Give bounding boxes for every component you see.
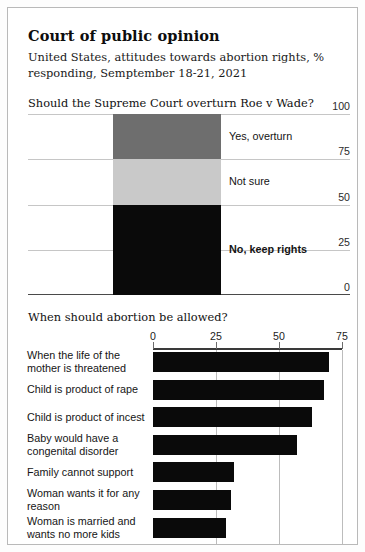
chart1-segment <box>113 114 221 159</box>
chart2-gridline <box>342 350 343 544</box>
chart2-category-label: Child is product of rape <box>27 383 149 396</box>
infographic-frame: Court of public opinion United States, a… <box>7 7 358 545</box>
chart2-bar <box>153 352 329 372</box>
chart1-ytick-label: 100 <box>332 100 350 112</box>
chart1-ytick-label: 75 <box>338 145 350 157</box>
chart1-segment-label: No, keep rights <box>229 243 307 255</box>
chart2-bar <box>153 435 297 455</box>
chart1-title: Should the Supreme Court overturn Roe v … <box>28 96 314 110</box>
chart2-xtick-label: 50 <box>273 330 285 342</box>
chart2-category-label: When the life of the mother is threatene… <box>27 349 149 375</box>
chart2-xtick-mark <box>342 342 343 349</box>
chart2-category-label: Woman is married and wants no more kids <box>27 515 149 541</box>
chart1-ytick-label: 25 <box>338 236 350 248</box>
chart1-segment-label: Not sure <box>229 175 270 187</box>
chart2-xtick-mark <box>216 342 217 349</box>
chart1-stacked-column: 1007550250No, keep rightsNot sureYes, ov… <box>28 114 350 298</box>
chart1-segment-label: Yes, overturn <box>229 130 292 142</box>
chart2-xtick-label: 0 <box>150 330 156 342</box>
page-subtitle: United States, attitudes towards abortio… <box>28 50 348 81</box>
chart2-xtick-mark <box>153 342 154 349</box>
page-title: Court of public opinion <box>28 27 220 44</box>
chart2-bar <box>153 518 226 538</box>
chart2-category-label: Child is product of incest <box>27 411 149 424</box>
chart2-bar <box>153 380 324 400</box>
chart1-plot-area: 1007550250No, keep rightsNot sureYes, ov… <box>28 114 350 295</box>
chart2-horizontal-bars: 0255075When the life of the mother is th… <box>8 328 359 543</box>
chart2-category-label: Woman wants it for any reason <box>27 487 149 513</box>
chart1-segment <box>113 205 221 296</box>
chart1-ytick-label: 50 <box>338 191 350 203</box>
chart2-title: When should abortion be allowed? <box>28 310 228 324</box>
chart2-bar <box>153 407 312 427</box>
chart2-bar <box>153 462 234 482</box>
chart1-ytick-label: 0 <box>344 281 350 293</box>
infographic-page: Court of public opinion United States, a… <box>0 0 365 552</box>
chart2-xtick-label: 75 <box>336 330 348 342</box>
chart1-segment <box>113 159 221 204</box>
chart2-xtick-mark <box>279 342 280 349</box>
chart2-bar <box>153 490 231 510</box>
chart2-category-label: Family cannot support <box>27 466 149 479</box>
chart2-axis-line <box>153 348 342 350</box>
chart2-category-label: Baby would have a congenital disorder <box>27 432 149 458</box>
chart2-xtick-label: 25 <box>210 330 222 342</box>
